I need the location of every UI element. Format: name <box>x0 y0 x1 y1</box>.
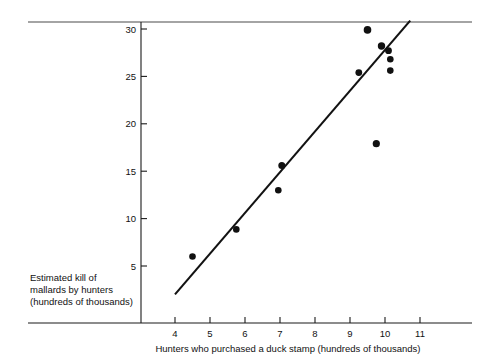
y-tick-label: 5 <box>131 261 136 272</box>
data-point <box>189 253 196 260</box>
x-tick-label: 7 <box>277 328 282 339</box>
x-tick-label: 10 <box>380 328 391 339</box>
y-axis-title-line-1: Estimated kill of <box>30 272 97 283</box>
x-axis-title: Hunters who purchased a duck stamp (hund… <box>155 343 420 354</box>
x-tick-marks <box>175 317 420 323</box>
y-axis-title: Estimated kill of mallards by hunters (h… <box>30 272 133 307</box>
data-point <box>378 42 385 49</box>
x-tick-label: 4 <box>172 328 177 339</box>
data-point <box>355 69 362 76</box>
y-tick-label: 25 <box>125 71 136 82</box>
x-tick-label: 8 <box>312 328 317 339</box>
y-tick-label: 15 <box>125 166 136 177</box>
y-tick-label: 30 <box>125 24 136 35</box>
data-point <box>387 56 394 63</box>
x-tick-label: 9 <box>347 328 352 339</box>
data-point <box>387 67 394 74</box>
data-points <box>189 26 393 260</box>
data-point <box>364 26 372 34</box>
data-point <box>373 140 380 147</box>
x-tick-label: 6 <box>242 328 247 339</box>
y-tick-labels: 30 25 20 15 10 5 <box>125 24 136 272</box>
x-tick-label: 11 <box>415 328 425 339</box>
y-tick-label: 10 <box>125 213 136 224</box>
data-point <box>385 47 392 54</box>
x-tick-label: 5 <box>207 328 212 339</box>
data-point <box>233 226 240 233</box>
trend-line <box>175 21 410 295</box>
data-point <box>278 162 285 169</box>
x-tick-labels: 4 5 6 7 8 9 10 11 <box>172 328 425 339</box>
y-tick-label: 20 <box>125 118 136 129</box>
data-point <box>275 187 282 194</box>
scatter-plot-figure: 30 25 20 15 10 5 4 5 6 7 8 9 10 11 <box>0 0 500 360</box>
y-axis-title-line-2: mallards by hunters <box>30 284 113 295</box>
y-tick-marks <box>141 29 147 266</box>
y-axis-title-line-3: (hundreds of thousands) <box>30 296 133 307</box>
